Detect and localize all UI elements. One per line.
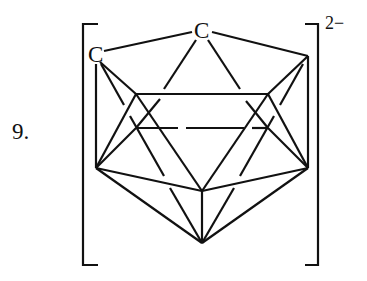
cluster-edges <box>96 32 308 243</box>
edge <box>268 94 308 168</box>
edge <box>202 188 234 243</box>
edge <box>104 32 192 51</box>
edge <box>280 64 303 105</box>
edge <box>212 32 308 56</box>
edge <box>246 101 268 128</box>
edge <box>130 116 164 176</box>
edge <box>268 128 308 168</box>
carborane-icosahedron-diagram: 9. 2− <box>0 0 367 281</box>
edge <box>100 62 136 94</box>
carbon-label-left: C <box>88 42 103 67</box>
item-number: 9. <box>12 119 29 144</box>
edge <box>208 40 240 89</box>
edge <box>101 64 124 105</box>
edge <box>96 128 136 168</box>
edge <box>240 116 274 176</box>
edge <box>96 94 136 168</box>
edge <box>170 188 202 243</box>
carbon-label-top: C <box>194 18 209 43</box>
edge <box>164 40 196 89</box>
edge <box>268 56 308 94</box>
charge-superscript: 2− <box>325 13 344 33</box>
